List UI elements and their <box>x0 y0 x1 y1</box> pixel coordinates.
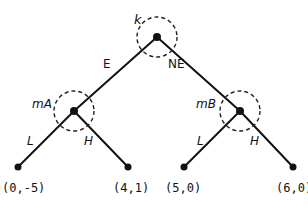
edge-label-mA-L: L <box>27 134 34 148</box>
payoff-1: (0,-5) <box>2 181 45 195</box>
edge-mB-L <box>184 111 240 167</box>
leaf-node-2 <box>125 164 132 171</box>
payoff-2: (4,1) <box>113 181 149 195</box>
edge-mB-H <box>240 111 293 167</box>
edge-label-mB-L: L <box>197 134 204 148</box>
node-mB <box>236 107 244 115</box>
edge-k-to-mA <box>74 37 157 111</box>
root-label: k <box>134 12 142 27</box>
node-mA <box>70 107 78 115</box>
node-k <box>153 33 161 41</box>
leaf-node-1 <box>15 164 22 171</box>
node-label-mB: mB <box>196 97 216 111</box>
leaf-node-4 <box>290 164 297 171</box>
payoff-3: (5,0) <box>165 181 201 195</box>
edge-label-E: E <box>103 57 111 71</box>
node-label-mA: mA <box>32 97 52 111</box>
edge-label-NE: NE <box>168 57 185 71</box>
payoff-4: (6,0) <box>276 181 308 195</box>
edge-label-mA-H: H <box>84 134 93 148</box>
edge-mA-H <box>74 111 128 167</box>
edge-label-mB-H: H <box>250 134 259 148</box>
game-tree-diagram: k mA mB E NE L H L H (0,-5) (4,1) (5,0) … <box>0 0 308 214</box>
leaf-node-3 <box>181 164 188 171</box>
